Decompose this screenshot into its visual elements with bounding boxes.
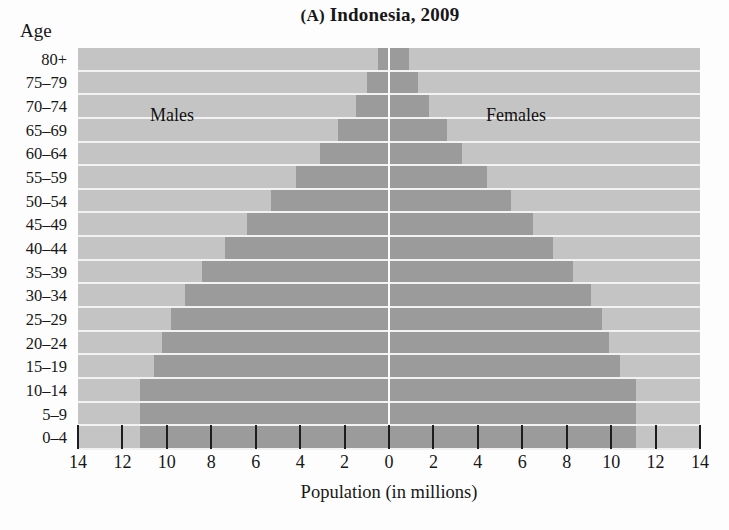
x-axis-tick-label: 14 [69,452,87,473]
x-axis-tick-mark [77,425,79,449]
x-axis-tick-mark [255,425,257,449]
chart-title-text: Indonesia, 2009 [325,4,460,25]
bar-female [389,48,409,70]
x-axis-tick-mark [121,425,123,449]
bar-male [162,332,389,354]
bar-male [296,166,389,188]
x-axis-tick-label: 14 [691,452,709,473]
bar-female [389,332,609,354]
bar-female [389,308,602,330]
series-label-females: Females [486,105,546,126]
y-axis-tick-label: 50–54 [26,194,67,211]
x-axis-tick-mark [344,425,346,449]
x-axis-tick-label: 2 [429,452,438,473]
x-axis-tick-label: 0 [385,452,394,473]
bar-male [271,190,389,212]
bar-male [185,284,389,306]
y-axis-tick-label: 10–14 [26,383,67,400]
x-axis-title: Population (in millions) [78,482,700,503]
panel-letter: (A) [301,6,325,25]
x-axis-tick-mark [210,425,212,449]
y-axis-title: Age [20,20,52,42]
series-label-males: Males [150,105,194,126]
x-axis-tick-mark [655,425,657,449]
bar-male [320,143,389,165]
y-axis-tick-label: 30–34 [26,288,67,305]
bar-female [389,95,429,117]
bar-male [356,95,389,117]
x-axis-tick-label: 8 [207,452,216,473]
x-axis-tick-mark [477,425,479,449]
bar-male [140,379,389,401]
x-axis-tick-label: 4 [296,452,305,473]
bar-female [389,379,636,401]
bar-female [389,190,511,212]
bar-female [389,284,591,306]
bar-male [338,119,389,141]
bar-male [171,308,389,330]
y-axis-tick-label: 75–79 [26,75,67,92]
x-axis-tick-mark [432,425,434,449]
x-axis-tick-mark [566,425,568,449]
y-axis-tick-labels: 80+75–7970–7465–6960–6455–5950–5445–4940… [0,48,72,450]
bar-female [389,143,462,165]
y-axis-tick-label: 60–64 [26,146,67,163]
y-axis-tick-label: 0–4 [42,430,67,447]
x-axis-tick-label: 10 [602,452,620,473]
bar-male [247,213,389,235]
x-axis-tick-label: 2 [340,452,349,473]
x-axis-tick-label: 10 [158,452,176,473]
y-axis-tick-label: 5–9 [42,407,67,424]
plot-area: Males Females [78,48,700,450]
bar-female [389,166,487,188]
population-pyramid-figure: (A) Indonesia, 2009 Age 80+75–7970–7465–… [0,0,729,530]
x-axis-tick-label: 12 [113,452,131,473]
bar-female [389,119,447,141]
y-axis-tick-label: 40–44 [26,241,67,258]
y-axis-tick-label: 45–49 [26,217,67,234]
x-axis-tick-labels: 141210864202468101214 [0,452,729,480]
x-axis-tick-mark [299,425,301,449]
bar-male [367,72,389,94]
chart-title: (A) Indonesia, 2009 [170,4,590,26]
bar-male [225,237,389,259]
bar-male [140,403,389,425]
x-axis-tick-mark [166,425,168,449]
bar-female [389,72,418,94]
x-axis-tick-label: 12 [647,452,665,473]
x-axis-tick-mark [388,425,390,449]
bar-female [389,237,553,259]
y-axis-tick-label: 65–69 [26,123,67,140]
x-axis-tick-label: 4 [473,452,482,473]
y-axis-tick-label: 25–29 [26,312,67,329]
x-axis-tick-label: 6 [518,452,527,473]
y-axis-tick-label: 15–19 [26,359,67,376]
y-axis-tick-label: 55–59 [26,170,67,187]
x-axis-tick-marks [78,425,700,450]
x-axis-tick-mark [699,425,701,449]
bar-female [389,355,620,377]
bar-female [389,213,533,235]
center-axis-line [388,48,390,450]
x-axis-tick-mark [521,425,523,449]
bar-female [389,403,636,425]
bar-male [154,355,389,377]
y-axis-tick-label: 70–74 [26,99,67,116]
y-axis-tick-label: 20–24 [26,336,67,353]
y-axis-tick-label: 80+ [41,52,67,69]
bar-female [389,261,573,283]
x-axis-tick-label: 8 [562,452,571,473]
y-axis-tick-label: 35–39 [26,265,67,282]
bar-male [202,261,389,283]
x-axis-tick-mark [610,425,612,449]
x-axis-tick-label: 6 [251,452,260,473]
